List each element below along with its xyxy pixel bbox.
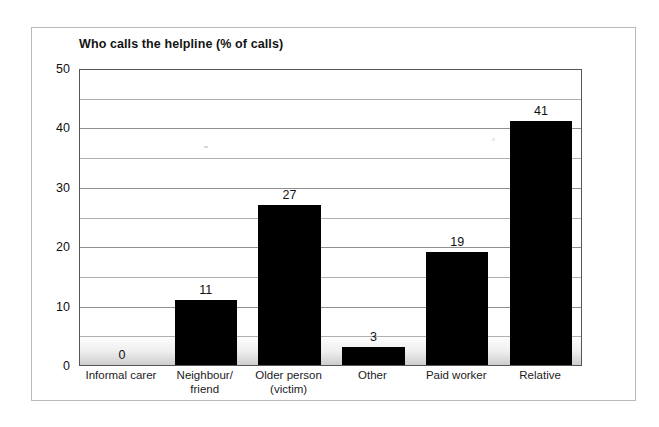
plot-area: 0112731941 (79, 69, 582, 366)
x-axis: Informal carerNeighbour/friendOlder pers… (79, 369, 582, 401)
bar-group[interactable]: 11 (175, 70, 237, 365)
bar-series: 0112731941 (80, 70, 581, 365)
bar-group[interactable]: 27 (258, 70, 320, 365)
x-tick-label-line: Relative (488, 369, 592, 383)
bar-value-label: 27 (258, 188, 320, 202)
chart-title: Who calls the helpline (% of calls) (79, 37, 283, 51)
x-tick-label: Relative (488, 369, 592, 383)
bar[interactable] (426, 252, 488, 365)
y-tick-label: 20 (56, 240, 70, 254)
bar-group[interactable]: 0 (91, 70, 153, 365)
bar-value-label: 11 (175, 283, 237, 297)
bar-group[interactable]: 19 (426, 70, 488, 365)
bar-value-label: 3 (342, 330, 404, 344)
x-tick-label-line: (victim) (237, 383, 341, 397)
bar-group[interactable]: 3 (342, 70, 404, 365)
bar[interactable] (258, 205, 320, 365)
bar-group[interactable]: 41 (510, 70, 572, 365)
y-tick-label: 50 (56, 62, 70, 76)
bar[interactable] (342, 347, 404, 365)
bar[interactable] (175, 300, 237, 365)
bar-value-label: 19 (426, 235, 488, 249)
chart-figure-frame: Who calls the helpline (% of calls) 0102… (31, 27, 636, 401)
y-axis: 01020304050 (32, 69, 75, 366)
bar-value-label: 41 (510, 104, 572, 118)
bar[interactable] (510, 121, 572, 365)
bar-value-label: 0 (91, 348, 153, 362)
y-tick-label: 40 (56, 121, 70, 135)
y-tick-label: 10 (56, 300, 70, 314)
y-tick-label: 30 (56, 181, 70, 195)
